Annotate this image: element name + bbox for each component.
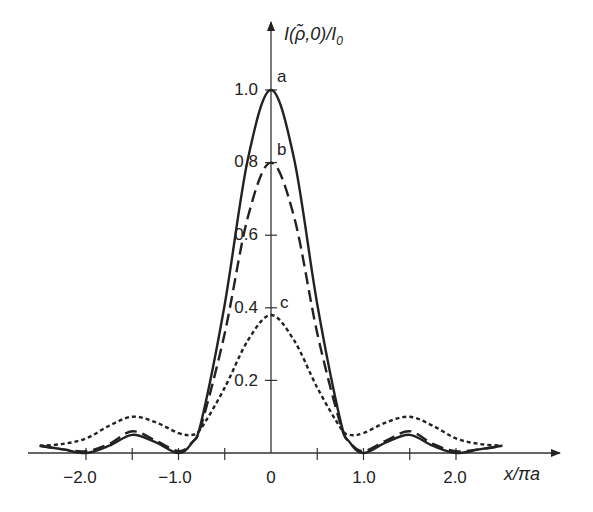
curve-label-c: c: [280, 293, 289, 312]
x-tick-label: 1.0: [352, 468, 376, 487]
x-tick-label: 0: [266, 468, 275, 487]
curve-label-b: b: [277, 140, 286, 159]
x-axis-title: x/πa: [503, 464, 540, 484]
x-tick-label: −2.0: [63, 468, 97, 487]
y-tick-label: 1.0: [234, 80, 258, 99]
y-tick-label: 0.2: [234, 371, 258, 390]
curve-label-a: a: [277, 67, 287, 86]
y-tick-label: 0.4: [234, 298, 258, 317]
x-tick-label: −1.0: [158, 468, 192, 487]
y-axis-title: I(ρ̃,0)/I0: [284, 23, 343, 48]
intensity-profile-chart: 0.2 0.4 0.6 0.8 1.0 −2.0 −1.0 0 1.0 2.0 …: [0, 0, 593, 512]
x-tick-label: 2.0: [443, 468, 467, 487]
